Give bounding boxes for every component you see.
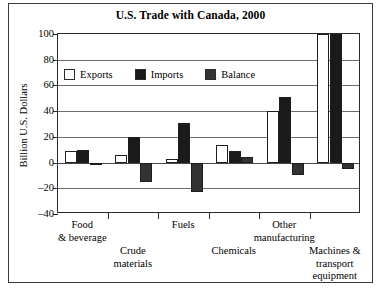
bar-group-2 bbox=[159, 34, 210, 212]
x-category-line: Chemicals bbox=[192, 245, 277, 258]
bar-imports-1 bbox=[128, 137, 140, 163]
y-tick-label-0: 0 bbox=[14, 156, 54, 167]
bar-imports-4 bbox=[279, 97, 291, 163]
x-category-label-4: Othermanufacturing bbox=[242, 219, 327, 244]
bar-group-3 bbox=[210, 34, 261, 212]
x-category-label-3: Chemicals bbox=[192, 245, 277, 258]
x-category-line: transport bbox=[293, 258, 378, 271]
bar-exports-5 bbox=[317, 34, 329, 163]
x-category-line: manufacturing bbox=[242, 232, 327, 245]
legend-item-balance: Balance bbox=[205, 69, 255, 80]
x-category-label-5: Machines &transportequipment bbox=[293, 245, 378, 283]
bar-balance-5 bbox=[342, 163, 354, 169]
legend-label-imports: Imports bbox=[151, 69, 184, 80]
y-tick-label-20: 20 bbox=[14, 130, 54, 141]
legend-swatch-exports bbox=[64, 69, 75, 80]
legend-swatch-imports bbox=[135, 69, 146, 80]
x-category-line: materials bbox=[91, 258, 176, 271]
legend-label-exports: Exports bbox=[80, 69, 113, 80]
x-category-line: Fuels bbox=[141, 219, 226, 232]
bar-exports-1 bbox=[115, 155, 127, 163]
bar-balance-3 bbox=[241, 157, 253, 162]
x-category-line: Crude bbox=[91, 245, 176, 258]
plot-area: ExportsImportsBalance bbox=[57, 33, 360, 213]
bar-exports-0 bbox=[65, 151, 77, 163]
bar-exports-4 bbox=[267, 111, 279, 162]
legend-swatch-balance bbox=[205, 69, 216, 80]
chart-figure: U.S. Trade with Canada, 2000 Billion U.S… bbox=[0, 0, 381, 289]
x-category-label-2: Fuels bbox=[141, 219, 226, 232]
x-category-line: Machines & bbox=[293, 245, 378, 258]
bar-balance-0 bbox=[90, 163, 102, 165]
bar-imports-0 bbox=[77, 150, 89, 163]
bar-group-0 bbox=[58, 34, 109, 212]
bar-balance-1 bbox=[140, 163, 152, 182]
x-category-line: Other bbox=[242, 219, 327, 232]
y-tick-label-80: 80 bbox=[14, 53, 54, 64]
y-axis-title: Billion U.S. Dollars bbox=[18, 56, 29, 196]
x-category-line: & beverage bbox=[40, 232, 125, 245]
legend-item-imports: Imports bbox=[135, 69, 184, 80]
legend-label-balance: Balance bbox=[221, 69, 255, 80]
bar-imports-3 bbox=[229, 151, 241, 163]
y-tick-label--40: –40 bbox=[14, 208, 54, 219]
y-tick-label--20: –20 bbox=[14, 182, 54, 193]
x-category-label-1: Crudematerials bbox=[91, 245, 176, 270]
chart-legend: ExportsImportsBalance bbox=[64, 69, 255, 80]
legend-item-exports: Exports bbox=[64, 69, 113, 80]
bar-balance-2 bbox=[191, 163, 203, 193]
x-category-line: Food bbox=[40, 219, 125, 232]
y-tick-label-60: 60 bbox=[14, 79, 54, 90]
bar-imports-2 bbox=[178, 123, 190, 163]
x-category-line: equipment bbox=[293, 270, 378, 283]
y-tick-label-40: 40 bbox=[14, 105, 54, 116]
bar-group-5 bbox=[311, 34, 362, 212]
y-tick-label-100: 100 bbox=[14, 28, 54, 39]
bar-exports-3 bbox=[216, 145, 228, 163]
bar-group-1 bbox=[109, 34, 160, 212]
bar-imports-5 bbox=[330, 34, 342, 163]
bar-group-4 bbox=[260, 34, 311, 212]
x-category-label-0: Food& beverage bbox=[40, 219, 125, 244]
bar-balance-4 bbox=[292, 163, 304, 176]
bar-exports-2 bbox=[166, 159, 178, 163]
chart-title: U.S. Trade with Canada, 2000 bbox=[0, 9, 381, 21]
